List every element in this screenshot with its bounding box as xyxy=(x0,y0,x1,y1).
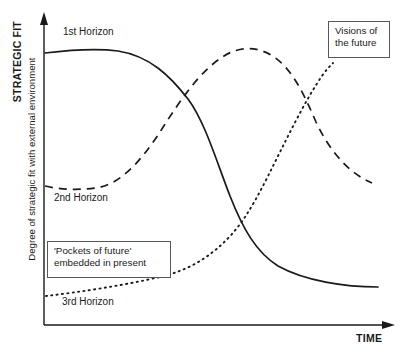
callout-visions-line-1: Visions of xyxy=(335,25,384,37)
series-label-3rd-horizon: 3rd Horizon xyxy=(62,296,114,308)
callout-pockets-line-2: embedded in present xyxy=(54,257,165,269)
x-axis-arrowhead xyxy=(382,321,395,329)
callout-visions-of-the-future: Visions of the future xyxy=(328,21,390,58)
callout-pockets-of-future: 'Pockets of future' embedded in present xyxy=(47,241,171,278)
series-line-2nd-horizon xyxy=(45,49,372,190)
callout-visions-line-2: the future xyxy=(335,37,384,49)
y-axis-arrowhead xyxy=(40,12,48,25)
y-axis-title-secondary: Degree of strategic fit with external en… xyxy=(26,61,37,261)
x-axis-title: TIME xyxy=(356,332,382,344)
series-label-1st-horizon: 1st Horizon xyxy=(63,26,114,38)
series-label-2nd-horizon: 2nd Horizon xyxy=(54,192,108,204)
three-horizons-chart: STRATEGIC FIT Degree of strategic fit wi… xyxy=(0,0,411,354)
callout-pockets-line-1: 'Pockets of future' xyxy=(54,245,165,257)
y-axis-title-primary: STRATEGIC FIT xyxy=(11,22,23,102)
